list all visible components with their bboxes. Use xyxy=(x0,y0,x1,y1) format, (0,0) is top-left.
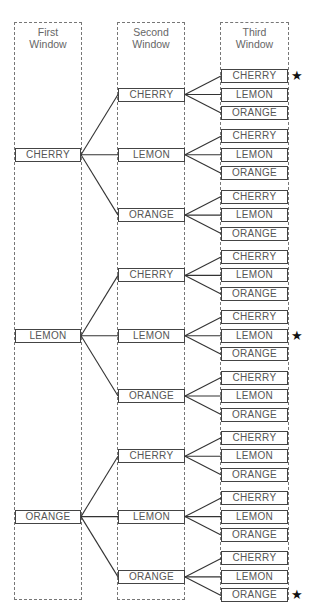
third-window-node: CHERRY xyxy=(221,310,288,324)
third-window-node: CHERRY xyxy=(221,431,288,445)
second-window-node: ORANGE xyxy=(118,208,185,222)
third-window-node: LEMON xyxy=(221,510,288,524)
star-icon: ★ xyxy=(291,329,303,343)
third-window-node: CHERRY xyxy=(221,190,288,204)
third-window-node: ORANGE xyxy=(221,468,288,482)
third-window-node: CHERRY xyxy=(221,129,288,143)
first-window-node: ORANGE xyxy=(15,510,81,524)
second-window-node: LEMON xyxy=(118,510,185,524)
third-window-node: LEMON xyxy=(221,88,288,102)
third-window-node: LEMON xyxy=(221,329,288,343)
star-icon: ★ xyxy=(291,69,303,83)
third-window-node: ORANGE xyxy=(221,166,288,180)
first-window-node: LEMON xyxy=(15,329,81,343)
second-window-node: CHERRY xyxy=(118,88,185,102)
third-window-node: ORANGE xyxy=(221,347,288,361)
third-window-node: LEMON xyxy=(221,268,288,282)
third-window-node: ORANGE xyxy=(221,227,288,241)
third-window-node: LEMON xyxy=(221,570,288,584)
third-window-node: LEMON xyxy=(221,449,288,463)
third-window-node: ORANGE xyxy=(221,408,288,422)
third-window-node: ORANGE xyxy=(221,287,288,301)
third-window-node: LEMON xyxy=(221,148,288,162)
third-window-node: CHERRY xyxy=(221,69,288,83)
second-window-node: CHERRY xyxy=(118,449,185,463)
third-window-node: LEMON xyxy=(221,208,288,222)
second-window-node: ORANGE xyxy=(118,570,185,584)
third-window-node: LEMON xyxy=(221,389,288,403)
third-window-node: ORANGE xyxy=(221,528,288,542)
second-window-node: LEMON xyxy=(118,148,185,162)
second-window-node: LEMON xyxy=(118,329,185,343)
third-window-node: CHERRY xyxy=(221,551,288,565)
third-window-node: CHERRY xyxy=(221,491,288,505)
third-window-node: CHERRY xyxy=(221,250,288,264)
first-window-node: CHERRY xyxy=(15,148,81,162)
third-window-node: ORANGE xyxy=(221,588,288,602)
star-icon: ★ xyxy=(291,588,303,602)
second-window-node: CHERRY xyxy=(118,268,185,282)
third-window-node: CHERRY xyxy=(221,371,288,385)
third-window-node: ORANGE xyxy=(221,106,288,120)
second-window-node: ORANGE xyxy=(118,389,185,403)
